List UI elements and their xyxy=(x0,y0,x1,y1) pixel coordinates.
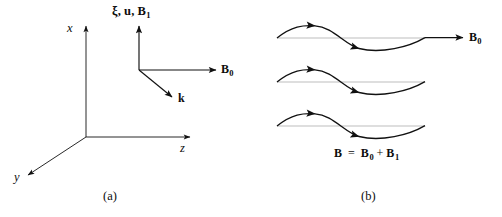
figure-root: x z y ξ, u, B1 B0 k (a) xyxy=(0,0,502,217)
axis-y xyxy=(28,137,86,175)
wave-bottom xyxy=(277,114,425,139)
equation-term1: B xyxy=(361,146,370,160)
axis-label-z: z xyxy=(180,142,185,155)
wave-bottom-segment-2 xyxy=(315,114,359,137)
label-wavevector: k xyxy=(178,92,185,104)
panel-b-vector-graphics xyxy=(251,0,502,217)
label-triad-field-text: B xyxy=(221,62,229,76)
equation-total-field: B = B0+B1 xyxy=(334,147,400,159)
equation-term2: B xyxy=(386,146,395,160)
label-perturbation-vectors: ξ, u, B1 xyxy=(112,5,150,18)
wave-middle-segment-3 xyxy=(359,82,425,95)
caption-panel-b: (b) xyxy=(361,190,376,203)
label-panel-b-field-subscript: 0 xyxy=(477,36,481,46)
wave-middle-segment-1 xyxy=(277,70,315,82)
panel-a-vector-graphics xyxy=(0,0,251,217)
label-triad-field-subscript: 0 xyxy=(229,68,233,78)
axis-label-x: x xyxy=(67,22,73,35)
equation-equals: = xyxy=(348,146,355,160)
equation-plus: + xyxy=(377,146,384,160)
label-triad-field: B0 xyxy=(221,63,233,75)
wave-top-segment-3 xyxy=(359,38,425,51)
axis-label-y: y xyxy=(14,171,20,184)
caption-panel-a: (a) xyxy=(103,190,117,203)
wave-bottom-segment-1 xyxy=(277,114,315,126)
wave-middle xyxy=(277,70,425,95)
equation-term1-subscript: 0 xyxy=(370,152,375,162)
wave-middle-segment-2 xyxy=(315,70,359,93)
label-panel-b-field: B0 xyxy=(469,31,481,43)
panel-b-field-lines: B0 B = B0+B1 (b) xyxy=(251,0,502,217)
label-perturbation-text: ξ, u, B xyxy=(112,4,146,18)
wave-top-segment-2 xyxy=(315,26,359,49)
label-panel-b-field-text: B xyxy=(469,30,477,44)
triad-wavevector xyxy=(139,70,172,97)
equation-lhs: B xyxy=(334,146,343,160)
equation-term2-subscript: 1 xyxy=(395,152,400,162)
panel-a-coordinate-system: x z y ξ, u, B1 B0 k (a) xyxy=(0,0,251,217)
wave-top xyxy=(277,26,463,51)
label-perturbation-subscript: 1 xyxy=(146,10,150,20)
wave-top-segment-1 xyxy=(277,26,315,38)
wave-bottom-segment-3 xyxy=(359,126,425,139)
